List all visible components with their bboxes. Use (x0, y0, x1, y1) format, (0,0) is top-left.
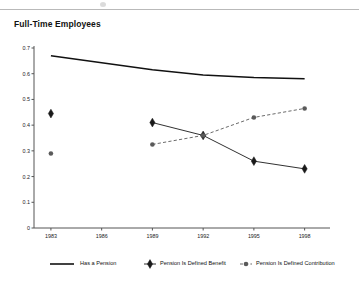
legend-label: Pension Is Defined Contribution (256, 260, 335, 266)
data-point-marker (244, 262, 249, 267)
data-point-marker (150, 118, 155, 127)
y-tick-label: 0.7 (23, 45, 31, 51)
legend-label: Pension Is Defined Benefit (160, 260, 226, 266)
series-layer (48, 56, 307, 174)
data-point-marker (302, 106, 307, 111)
data-point-marker (48, 109, 53, 118)
x-axis: 198319861989199219951998 (34, 228, 330, 239)
y-tick-label: 0.4 (23, 122, 31, 128)
x-tick-label: 1983 (45, 233, 57, 239)
series-line (152, 123, 304, 169)
x-tick-label: 1992 (197, 233, 209, 239)
data-point-marker (251, 157, 256, 166)
x-tick-label: 1995 (248, 233, 260, 239)
x-tick-label: 1986 (96, 233, 108, 239)
chart-legend: Has a PensionPension Is Defined BenefitP… (50, 260, 335, 269)
y-tick-label: 0.1 (23, 199, 31, 205)
series-line (152, 108, 304, 144)
data-point-marker (147, 260, 152, 269)
legend-item[interactable]: Has a Pension (50, 260, 116, 266)
x-tick-label: 1998 (299, 233, 311, 239)
data-point-marker (150, 142, 155, 147)
legend-item[interactable]: Pension Is Defined Contribution (240, 260, 335, 266)
chart-canvas: 00.10.20.30.40.50.60.7 19831986198919921… (0, 0, 359, 291)
data-point-marker (49, 151, 54, 156)
y-tick-label: 0.6 (23, 71, 31, 77)
y-axis: 00.10.20.30.40.50.60.7 (23, 45, 35, 231)
data-point-marker (252, 115, 257, 120)
y-tick-label: 0.3 (23, 148, 31, 154)
chart-figure: Full-Time Employees 00.10.20.30.40.50.60… (0, 0, 359, 291)
data-point-marker (201, 133, 206, 138)
y-tick-label: 0.2 (23, 174, 31, 180)
data-point-marker (302, 164, 307, 173)
y-tick-label: 0.5 (23, 96, 31, 102)
series-line (51, 56, 305, 79)
x-tick-label: 1989 (146, 233, 158, 239)
legend-item[interactable]: Pension Is Defined Benefit (144, 260, 226, 269)
y-tick-label: 0 (27, 225, 30, 231)
legend-label: Has a Pension (80, 260, 116, 266)
